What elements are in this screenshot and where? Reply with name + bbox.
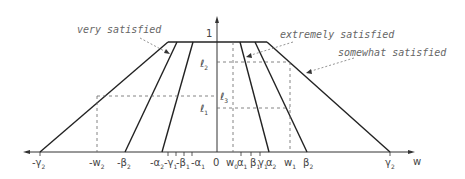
somewhat-satisfied-arrow-icon [306,69,312,74]
tick-alpha1: α1 [237,157,248,170]
axis-ticks [40,152,390,156]
extremely-satisfied-arrow-icon [246,53,252,58]
tick-neg-alpha1: -α1 [191,157,205,170]
somewhat-satisfied-leader [308,58,354,72]
tick-neg-beta1: -β1 [176,157,190,170]
w-axis-right-arrow-icon [408,150,415,154]
tick-neg-beta2: -β2 [117,157,131,170]
tick-neg-alpha2: -α2 [150,157,164,170]
tick-gamma2: γ2 [385,157,395,170]
extremely-left-slope [162,42,193,152]
guide-lines [97,42,290,152]
very-satisfied-arrow-icon [164,49,170,54]
somewhat-satisfied-label: somewhat satisfied [338,47,447,58]
tick-neg-w2: -w2 [89,157,105,170]
x-tick-labels: -γ2 -w2 -β2 -α2 -γ1 -β1 -α1 0 w0 α1 β1 γ… [32,157,395,170]
w-axis-left-arrow-icon [23,150,30,154]
tick-beta2: β2 [303,157,313,170]
somewhat-right-slope [267,42,390,152]
extremely-satisfied-leader [248,42,293,56]
extremely-right-slope [240,42,269,152]
membership-max-label: 1 [206,28,212,39]
level-l1-label: ℓ1 [200,103,208,116]
tick-w1: w1 [284,157,296,170]
very-right-slope [255,42,307,152]
very-left-slope [125,42,177,152]
somewhat-left-slope [40,42,168,152]
level-l2-label: ℓ2 [200,58,208,71]
w-axis-label: w [413,156,421,167]
level-l3-label: ℓ3 [220,91,228,104]
membership-axis-arrow-icon [215,16,219,23]
tick-zero: 0 [213,157,219,168]
trapezoidal-membership-diagram: very satisfied extremely satisfied somew… [0,0,465,179]
extremely-satisfied-label: extremely satisfied [280,29,395,40]
very-satisfied-label: very satisfied [77,24,162,35]
tick-neg-gamma2: -γ2 [32,157,46,170]
